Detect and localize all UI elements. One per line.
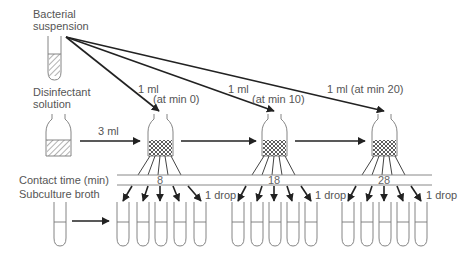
contact-time-label: Contact time (min): [19, 174, 109, 186]
transfer-timing-1: (at min 0): [153, 93, 199, 105]
disinfectant-volume-label: 3 ml: [98, 125, 119, 137]
drop-label-1: 1 drop: [205, 189, 236, 201]
bacterial-suspension-label-2: suspension: [33, 20, 89, 32]
bacterial-suspension-tube: [48, 36, 61, 80]
drop-arrows: [123, 186, 421, 201]
contact-time-2: 18: [268, 174, 280, 186]
disinfectant-label-2: solution: [33, 98, 71, 110]
spray-lines: [138, 156, 405, 175]
disinfectant-bottle: [46, 114, 71, 156]
source-broth-tube: [54, 202, 66, 246]
reaction-bottle-1: [148, 114, 173, 156]
drop-label-2: 1 drop: [315, 189, 346, 201]
transfer-timing-2: (at min 10): [252, 93, 305, 105]
subculture-tubes-group-1: [117, 202, 206, 246]
subculture-broth-label: Subculture broth: [19, 188, 100, 200]
reaction-bottle-3: [372, 114, 397, 156]
drop-label-3: 1 drop: [426, 189, 457, 201]
subculture-tubes-group-2: [232, 202, 317, 246]
disinfectant-label-1: Disinfectant: [33, 86, 90, 98]
contact-time-1: 8: [157, 174, 163, 186]
bacterial-suspension-label-1: Bacterial: [33, 8, 76, 20]
transfer-volume-3: 1 ml (at min 20): [327, 83, 403, 95]
disinfectant-test-diagram: Bacterial suspension 1 ml (at min 0) 1 m…: [0, 0, 475, 265]
contact-time-3: 28: [378, 174, 390, 186]
subculture-tubes-group-3: [342, 202, 427, 246]
transfer-volume-2: 1 ml: [228, 83, 249, 95]
reaction-bottle-2: [262, 114, 287, 156]
